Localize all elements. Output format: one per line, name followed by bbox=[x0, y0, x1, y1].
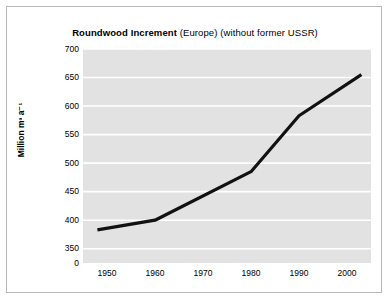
x-axis-ticks: 195019601970198019902000 bbox=[83, 269, 371, 283]
x-tick-label: 1950 bbox=[87, 269, 127, 278]
plot-area bbox=[83, 49, 371, 263]
y-tick-label: 0 bbox=[49, 259, 79, 268]
y-tick-label: 500 bbox=[49, 159, 79, 168]
y-axis-ticks: 0350400450500550600650700 bbox=[43, 49, 79, 263]
x-tick-label: 1960 bbox=[135, 269, 175, 278]
x-tick-label: 1980 bbox=[231, 269, 271, 278]
gridlines bbox=[83, 49, 371, 249]
chart-figure: Roundwood Increment (Europe) (without fo… bbox=[6, 6, 382, 293]
plot-svg bbox=[83, 49, 371, 263]
y-axis-label: Million m³ a⁻¹ bbox=[16, 75, 26, 185]
x-tick-label: 1970 bbox=[183, 269, 223, 278]
x-tick-label: 2000 bbox=[327, 269, 367, 278]
y-tick-label: 450 bbox=[49, 187, 79, 196]
y-tick-label: 700 bbox=[49, 45, 79, 54]
data-line-roundwood-increment bbox=[97, 75, 361, 230]
y-tick-label: 350 bbox=[49, 244, 79, 253]
y-tick-label: 600 bbox=[49, 102, 79, 111]
chart-title-subtitle: (Europe) (without former USSR) bbox=[177, 27, 318, 38]
y-tick-label: 550 bbox=[49, 130, 79, 139]
y-tick-label: 650 bbox=[49, 73, 79, 82]
x-tick-label: 1990 bbox=[279, 269, 319, 278]
chart-title-main: Roundwood Increment bbox=[72, 27, 177, 38]
y-tick-label: 400 bbox=[49, 216, 79, 225]
chart-title: Roundwood Increment (Europe) (without fo… bbox=[7, 27, 383, 38]
